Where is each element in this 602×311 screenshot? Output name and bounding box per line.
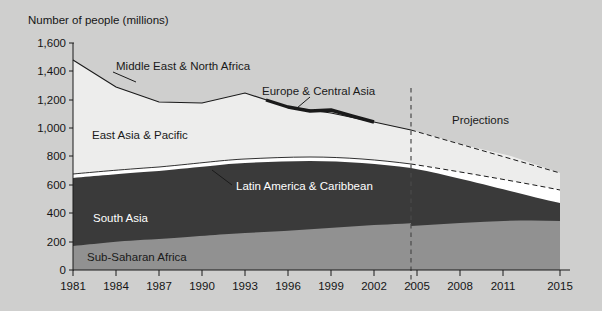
series-label-middle-east-north-africa: Middle East & North Africa: [116, 60, 251, 72]
y-tick-600: 600: [47, 179, 66, 191]
x-tick-2015: 2015: [547, 280, 573, 292]
series-label-europe-central-asia: Europe & Central Asia: [262, 85, 376, 97]
y-tick-1200: 1,200: [37, 94, 66, 106]
y-tick-200: 200: [47, 236, 66, 248]
y-axis-title: Number of people (millions): [28, 14, 169, 26]
y-tick-1400: 1,400: [37, 65, 66, 77]
x-tick-1996: 1996: [275, 280, 301, 292]
y-tick-1600: 1,600: [37, 37, 66, 49]
series-label-east-asia-pacific: East Asia & Pacific: [92, 129, 188, 141]
x-tick-2011: 2011: [491, 280, 516, 292]
y-tick-800: 800: [47, 150, 66, 162]
area-projection-sub-saharan: [411, 220, 560, 270]
series-label-latin-america-caribbean: Latin America & Caribbean: [236, 180, 373, 192]
series-label-south-asia: South Asia: [93, 212, 149, 224]
y-tick-0: 0: [60, 264, 66, 276]
x-tick-2008: 2008: [447, 280, 473, 292]
series-label-sub-saharan-africa: Sub-Saharan Africa: [87, 251, 187, 263]
x-tick-1981: 1981: [60, 280, 86, 292]
x-tick-2002: 2002: [361, 280, 387, 292]
series-label-projections: Projections: [452, 114, 509, 126]
x-tick-1990: 1990: [189, 280, 215, 292]
poverty-stacked-area-chart: Number of people (millions) 1,600 1,400 …: [0, 0, 602, 311]
y-tick-1000: 1,000: [37, 122, 66, 134]
x-tick-1999: 1999: [318, 280, 344, 292]
x-tick-2005: 2005: [404, 280, 430, 292]
y-tick-400: 400: [47, 207, 66, 219]
x-tick-1984: 1984: [103, 280, 129, 292]
x-tick-1987: 1987: [146, 280, 172, 292]
x-tick-1993: 1993: [232, 280, 258, 292]
chart-container: Number of people (millions) 1,600 1,400 …: [0, 0, 602, 311]
